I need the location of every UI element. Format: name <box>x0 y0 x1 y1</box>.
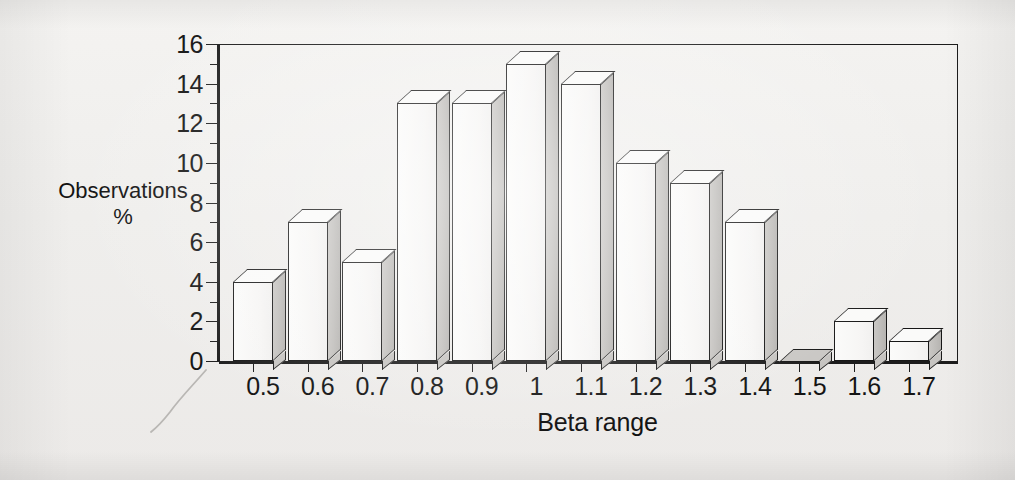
bar[interactable] <box>889 341 929 361</box>
y-axis-title-line-1: Observations <box>58 178 188 203</box>
x-axis-tick-label: 0.7 <box>356 374 389 399</box>
y-axis: 0246810121416 <box>217 44 220 362</box>
bar[interactable] <box>233 282 273 361</box>
x-axis-tick <box>417 361 418 372</box>
y-axis-tick <box>206 44 217 45</box>
chart-figure: Observations % 0246810121416 Beta range … <box>0 0 1015 480</box>
x-axis-tick-label: 0.8 <box>410 374 443 399</box>
x-axis-tick-label: 1.2 <box>629 374 662 399</box>
bar-side-face <box>765 211 778 361</box>
y-axis-minor-tick <box>210 222 217 223</box>
x-axis-tick-label: 1.1 <box>574 374 607 399</box>
x-axis-tick <box>636 361 637 372</box>
x-axis-tick-label: 1.6 <box>848 374 881 399</box>
bar-front-face <box>725 222 765 361</box>
bar-side-face <box>328 211 341 361</box>
y-axis-minor-tick <box>210 341 217 342</box>
y-axis-tick <box>206 242 217 243</box>
bar[interactable] <box>561 84 601 361</box>
bar[interactable] <box>452 103 492 361</box>
bar[interactable] <box>288 222 328 361</box>
bar-front-face <box>506 64 546 361</box>
x-axis-tick <box>854 361 855 372</box>
y-axis-tick-label: 16 <box>176 32 203 57</box>
bar-side-face <box>382 250 395 361</box>
x-axis-tick-label: 1.3 <box>684 374 717 399</box>
x-axis-tick-label: 1 <box>529 374 542 399</box>
y-axis-tick <box>206 163 217 164</box>
y-axis-minor-tick <box>210 143 217 144</box>
bar-front-face <box>452 103 492 361</box>
y-axis-tick <box>206 84 217 85</box>
bar[interactable] <box>342 262 382 361</box>
x-axis-tick <box>253 361 254 372</box>
y-axis-tick-label: 6 <box>190 230 203 255</box>
bar[interactable] <box>506 64 546 361</box>
x-axis-tick-label: 1.5 <box>793 374 826 399</box>
y-axis-minor-tick <box>210 103 217 104</box>
x-axis-tick-label: 0.5 <box>246 374 279 399</box>
y-axis-tick <box>206 282 217 283</box>
x-axis-tick <box>526 361 527 372</box>
x-axis-tick <box>362 361 363 372</box>
y-axis-minor-tick <box>210 302 217 303</box>
bar[interactable] <box>725 222 765 361</box>
x-axis-tick-label: 1.7 <box>902 374 935 399</box>
y-axis-title: Observations % <box>48 178 198 230</box>
x-axis-tick-label: 0.9 <box>465 374 498 399</box>
y-axis-tick-label: 14 <box>176 71 203 96</box>
y-axis-tick-label: 8 <box>190 190 203 215</box>
y-axis-tick-label: 0 <box>190 349 203 374</box>
bar-side-face <box>710 171 723 361</box>
y-axis-tick <box>206 203 217 204</box>
y-axis-tick <box>206 361 217 362</box>
bar-front-face <box>616 163 656 361</box>
y-axis-tick <box>206 321 217 322</box>
bar[interactable] <box>670 183 710 361</box>
y-axis-tick-label: 4 <box>190 269 203 294</box>
y-axis-tick-label: 12 <box>176 111 203 136</box>
y-axis-minor-tick <box>210 64 217 65</box>
x-axis-tick <box>799 361 800 372</box>
x-axis-tick <box>581 361 582 372</box>
bar-side-face <box>273 270 286 361</box>
x-axis-tick <box>472 361 473 372</box>
y-axis-tick-label: 2 <box>190 309 203 334</box>
bar-side-face <box>437 92 450 361</box>
bar-front-face <box>834 321 874 361</box>
x-axis-tick-label: 1.4 <box>738 374 771 399</box>
bar-front-face <box>233 282 273 361</box>
bar-front-face <box>397 103 437 361</box>
bar-front-face <box>889 341 929 361</box>
x-axis-tick <box>745 361 746 372</box>
x-axis-tick <box>308 361 309 372</box>
x-axis-title-text: Beta range <box>537 408 657 436</box>
bar[interactable] <box>834 321 874 361</box>
bar-front-face <box>342 262 382 361</box>
bar-front-face <box>561 84 601 361</box>
bar-side-face <box>546 52 559 361</box>
x-axis-tick-label: 0.6 <box>301 374 334 399</box>
y-axis-tick-label: 10 <box>176 150 203 175</box>
y-axis-minor-tick <box>210 262 217 263</box>
y-axis-minor-tick <box>210 183 217 184</box>
x-axis-tick <box>690 361 691 372</box>
x-axis-tick <box>909 361 910 372</box>
bar-front-face <box>288 222 328 361</box>
bar[interactable] <box>397 103 437 361</box>
x-axis-title: Beta range <box>0 408 1015 437</box>
bar[interactable] <box>616 163 656 361</box>
y-axis-title-line-2: % <box>48 204 198 230</box>
y-axis-tick <box>206 123 217 124</box>
bar-side-face <box>601 72 614 361</box>
bar-side-face <box>492 92 505 361</box>
bar-front-face <box>670 183 710 361</box>
bar-side-face <box>656 151 669 361</box>
